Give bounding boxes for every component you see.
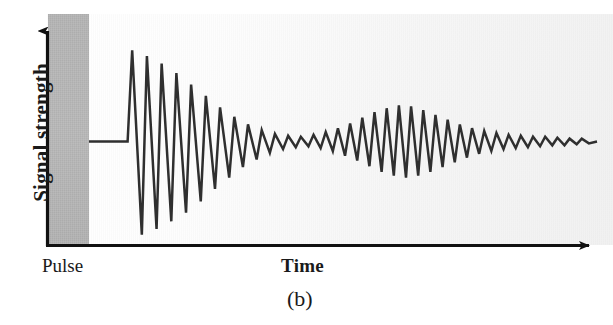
x-axis-label: Time [281,256,324,275]
signal-trace [89,50,597,234]
chart-svg [0,0,613,325]
y-axis-label: Signal strength [31,48,52,218]
pulse-axis-label: Pulse [42,256,83,275]
figure-panel-b: Signal strength Pulse Time (b) [0,0,613,325]
panel-caption: (b) [287,288,313,310]
